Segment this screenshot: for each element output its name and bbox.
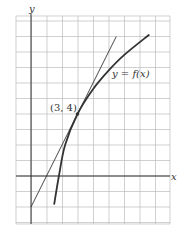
point-label: (3, 4) xyxy=(50,102,77,113)
graph: y x (3, 4) y = f(x) xyxy=(0,0,181,239)
y-axis-label: y xyxy=(28,3,35,14)
curve-label: y = f(x) xyxy=(111,68,150,79)
function-curve xyxy=(54,35,149,204)
x-axis-label: x xyxy=(171,171,177,182)
grid xyxy=(16,16,170,224)
